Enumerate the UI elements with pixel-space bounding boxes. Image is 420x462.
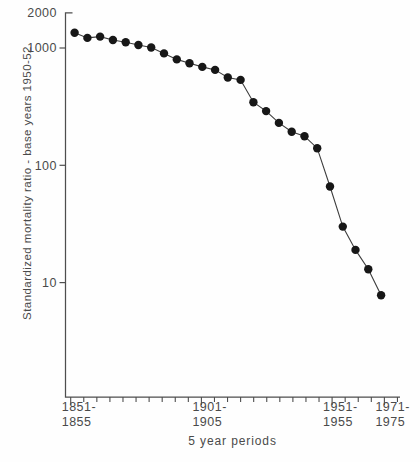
x-tick-label-line1: 1951- bbox=[323, 400, 357, 414]
data-point bbox=[83, 34, 91, 42]
x-tick-label-line1: 1971- bbox=[375, 400, 409, 414]
y-tick-label: 100 bbox=[35, 159, 57, 173]
data-point bbox=[351, 246, 359, 254]
data-point bbox=[224, 73, 232, 81]
y-tick-label: 1000 bbox=[27, 41, 57, 55]
data-point bbox=[109, 36, 117, 44]
data-point bbox=[275, 119, 283, 127]
x-axis-title: 5 year periods bbox=[65, 434, 400, 448]
data-point bbox=[326, 182, 334, 190]
data-point bbox=[211, 66, 219, 74]
x-tick-label-line1: 1901- bbox=[192, 400, 226, 414]
data-point bbox=[198, 63, 206, 71]
data-point bbox=[288, 128, 296, 136]
series-line bbox=[75, 33, 382, 296]
x-tick-label-line2: 1975 bbox=[375, 415, 405, 429]
data-point bbox=[364, 265, 372, 273]
data-point bbox=[377, 291, 385, 299]
data-point bbox=[262, 107, 270, 115]
data-point bbox=[122, 38, 130, 46]
data-point bbox=[160, 49, 168, 57]
data-point bbox=[173, 55, 181, 63]
data-point bbox=[236, 76, 244, 84]
y-tick-label: 2000 bbox=[27, 6, 57, 20]
chart-canvas: 20001000100101851-18551901-19051951-1955… bbox=[0, 0, 420, 462]
y-tick-label: 10 bbox=[42, 276, 57, 290]
axis-frame bbox=[66, 13, 401, 397]
x-tick-label-line2: 1855 bbox=[62, 415, 92, 429]
data-point bbox=[313, 144, 321, 152]
x-tick-label-line1: 1851- bbox=[62, 400, 96, 414]
data-point bbox=[300, 132, 308, 140]
data-point bbox=[339, 222, 347, 230]
data-point bbox=[185, 59, 193, 67]
data-point bbox=[96, 32, 104, 40]
data-point bbox=[147, 43, 155, 51]
data-point bbox=[249, 98, 257, 106]
x-tick-label-line2: 1905 bbox=[192, 415, 222, 429]
mortality-chart-figure: Standardized mortality ratio - base year… bbox=[0, 0, 420, 462]
x-tick-label-line2: 1955 bbox=[323, 415, 353, 429]
data-point bbox=[134, 41, 142, 49]
data-point bbox=[70, 29, 78, 37]
